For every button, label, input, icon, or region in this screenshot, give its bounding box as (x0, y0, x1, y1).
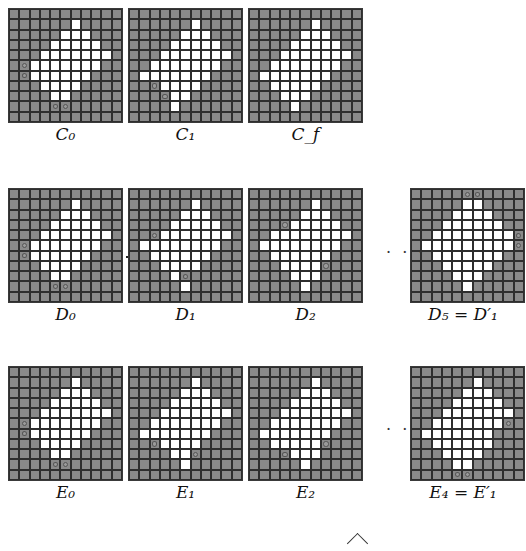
white-cell (50, 91, 60, 101)
white-cell (91, 240, 101, 250)
grey-cell (352, 81, 362, 91)
grey-cell (180, 112, 190, 122)
white-cell (60, 30, 70, 40)
white-cell (473, 388, 483, 398)
white-cell (311, 418, 321, 428)
white-cell (493, 230, 503, 240)
grey-cell (331, 292, 341, 302)
grey-cell (139, 210, 149, 220)
grey-cell (321, 112, 331, 122)
white-cell (473, 418, 483, 428)
grey-cell (442, 388, 452, 398)
white-cell (71, 398, 81, 408)
grey-cell (221, 429, 231, 439)
white-cell (40, 60, 50, 70)
grey-cell (170, 199, 180, 209)
white-cell (191, 408, 201, 418)
grey-cell (311, 292, 321, 302)
grey-cell (30, 388, 40, 398)
grey-cell (514, 199, 524, 209)
grey-cell (150, 101, 160, 111)
white-cell (503, 240, 513, 250)
grey-cell (341, 240, 351, 250)
white-cell (71, 50, 81, 60)
grey-cell (201, 271, 211, 281)
white-cell (300, 439, 310, 449)
grey-cell (232, 40, 242, 50)
white-cell (81, 60, 91, 70)
grey-cell (150, 91, 160, 101)
white-cell (50, 439, 60, 449)
grey-cell (30, 449, 40, 459)
grey-cell (331, 91, 341, 101)
grey-cell (112, 429, 122, 439)
white-cell (50, 261, 60, 271)
white-cell (91, 50, 101, 60)
grey-cell (259, 439, 269, 449)
white-cell (71, 230, 81, 240)
white-cell (442, 449, 452, 459)
grey-cell (411, 292, 421, 302)
grey-cell (101, 199, 111, 209)
grey-cell (270, 388, 280, 398)
grey-cell (91, 292, 101, 302)
grey-cell (50, 377, 60, 387)
grey-cell (201, 91, 211, 101)
white-cell (170, 60, 180, 70)
grey-cell (211, 271, 221, 281)
white-cell (290, 230, 300, 240)
grey-cell (139, 439, 149, 449)
white-cell (170, 418, 180, 428)
grey-cell (341, 398, 351, 408)
grey-cell (331, 388, 341, 398)
grey-cell (112, 449, 122, 459)
grey-cell (19, 271, 29, 281)
grey-cell (280, 377, 290, 387)
white-cell (191, 19, 201, 29)
grey-cell (211, 210, 221, 220)
grey-cell (452, 377, 462, 387)
white-cell (462, 240, 472, 250)
grey-cell (352, 449, 362, 459)
grey-cell (201, 81, 211, 91)
grey-cell (483, 271, 493, 281)
white-cell (211, 240, 221, 250)
grey-cell (60, 199, 70, 209)
grey-cell (81, 101, 91, 111)
circle-marker (60, 459, 70, 469)
grey-cell (514, 398, 524, 408)
grey-cell (30, 101, 40, 111)
white-cell (462, 439, 472, 449)
white-cell (211, 230, 221, 240)
white-cell (483, 388, 493, 398)
grey-cell (71, 459, 81, 469)
grey-cell (411, 408, 421, 418)
white-cell (280, 60, 290, 70)
white-cell (300, 240, 310, 250)
grey-cell (19, 388, 29, 398)
grey-cell (432, 377, 442, 387)
grey-cell (232, 292, 242, 302)
white-cell (201, 230, 211, 240)
white-cell (300, 71, 310, 81)
grey-cell (321, 470, 331, 480)
white-cell (290, 50, 300, 60)
white-cell (311, 240, 321, 250)
circle-marker (321, 439, 331, 449)
grey-cell (352, 112, 362, 122)
grey-cell (483, 377, 493, 387)
grey-cell (432, 281, 442, 291)
white-cell (50, 40, 60, 50)
grey-cell (352, 60, 362, 70)
grey-cell (9, 398, 19, 408)
grey-cell (232, 408, 242, 418)
white-cell (290, 71, 300, 81)
grey-cell (9, 470, 19, 480)
grey-cell (493, 388, 503, 398)
panel-label-e1: E₁ (128, 482, 243, 502)
white-cell (40, 50, 50, 60)
grey-cell (421, 377, 431, 387)
grey-cell (341, 19, 351, 29)
grey-cell (211, 19, 221, 29)
grey-cell (139, 40, 149, 50)
